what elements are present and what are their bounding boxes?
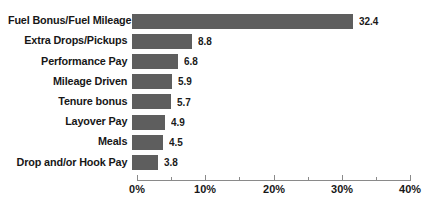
bar xyxy=(132,155,158,170)
bar-row: Tenure bonus5.7 xyxy=(0,92,436,112)
x-axis-minor-tick xyxy=(239,177,240,180)
bar-row: Meals4.5 xyxy=(0,132,436,152)
category-label: Meals xyxy=(8,136,132,148)
bar-row: Drop and/or Hook Pay3.8 xyxy=(0,152,436,172)
bar xyxy=(132,115,165,130)
bar-row: Extra Drops/Pickups8.8 xyxy=(0,31,436,51)
bar xyxy=(132,135,163,150)
bar xyxy=(132,74,172,89)
x-axis-minor-tick xyxy=(308,177,309,180)
bar-wrapper: 3.8 xyxy=(132,155,436,170)
x-axis-tick xyxy=(410,175,411,180)
category-label: Performance Pay xyxy=(8,56,132,68)
category-label: Mileage Driven xyxy=(8,76,132,88)
bar-value-label: 5.9 xyxy=(178,76,192,87)
bar-value-label: 4.9 xyxy=(171,117,185,128)
bar-value-label: 3.8 xyxy=(164,157,178,168)
x-axis-tick-label: 40% xyxy=(399,184,421,196)
bar-wrapper: 4.9 xyxy=(132,115,436,130)
bar-wrapper: 5.9 xyxy=(132,74,436,89)
bar-value-label: 4.5 xyxy=(169,137,183,148)
x-axis-tick-label: 20% xyxy=(263,184,285,196)
x-axis-tick-label: 30% xyxy=(331,184,353,196)
bar-value-label: 32.4 xyxy=(359,16,378,27)
bar-value-label: 5.7 xyxy=(177,97,191,108)
category-label: Drop and/or Hook Pay xyxy=(8,157,132,169)
bar-value-label: 6.8 xyxy=(184,56,198,67)
bar-row: Fuel Bonus/Fuel Mileage32.4 xyxy=(0,11,436,31)
bar-wrapper: 32.4 xyxy=(132,14,436,29)
x-axis-tick xyxy=(274,175,275,180)
bar-wrapper: 6.8 xyxy=(132,54,436,69)
category-label: Extra Drops/Pickups xyxy=(8,35,132,47)
x-axis-line xyxy=(137,180,411,181)
bar-row: Performance Pay6.8 xyxy=(0,51,436,71)
bar-wrapper: 8.8 xyxy=(132,34,436,49)
x-axis-tick xyxy=(205,175,206,180)
x-axis-tick xyxy=(342,175,343,180)
bar xyxy=(132,54,178,69)
bar xyxy=(132,34,192,49)
category-label: Tenure bonus xyxy=(8,96,132,108)
category-label: Fuel Bonus/Fuel Mileage xyxy=(8,15,132,27)
bar-row: Layover Pay4.9 xyxy=(0,112,436,132)
x-axis-minor-tick xyxy=(171,177,172,180)
category-label: Layover Pay xyxy=(8,116,132,128)
bar xyxy=(132,94,171,109)
bar-wrapper: 5.7 xyxy=(132,94,436,109)
x-axis-minor-tick xyxy=(376,177,377,180)
bar-value-label: 8.8 xyxy=(198,36,212,47)
x-axis-tick xyxy=(137,175,138,180)
x-axis-tick-label: 0% xyxy=(129,184,145,196)
bar-row: Mileage Driven5.9 xyxy=(0,72,436,92)
bar xyxy=(132,14,353,29)
bar-wrapper: 4.5 xyxy=(132,135,436,150)
x-axis-tick-label: 10% xyxy=(194,184,216,196)
bar-chart: Fuel Bonus/Fuel Mileage32.4Extra Drops/P… xyxy=(0,0,436,216)
